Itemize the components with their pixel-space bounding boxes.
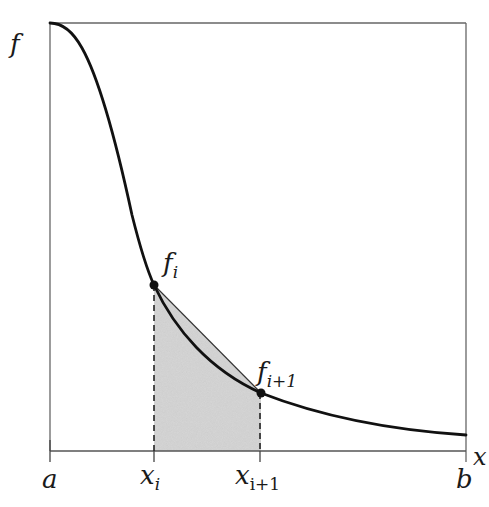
tick-label-xi: xi (140, 460, 160, 494)
point-fi (150, 281, 159, 290)
trapezoid-area (154, 285, 261, 451)
point-label-fi1: fi+1 (255, 357, 297, 391)
tick-label-a: a (42, 464, 58, 494)
x-axis-label: x (473, 443, 487, 471)
tick-label-b: b (456, 464, 473, 494)
tick-label-xi1: xi+1 (235, 460, 280, 494)
point-fi1 (257, 389, 266, 398)
trapezoid-diagram: f x fi fi+1 a xi xi+1 b (0, 0, 489, 507)
point-label-fi: fi (161, 248, 178, 282)
y-axis-label: f (8, 29, 24, 59)
